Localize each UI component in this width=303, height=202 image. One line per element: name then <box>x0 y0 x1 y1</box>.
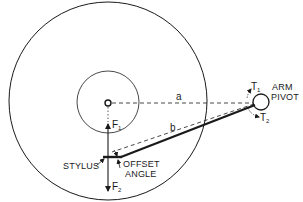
offset-angle-arc <box>114 150 117 156</box>
spindle <box>105 100 111 106</box>
offset-angle-label-line2: ANGLE <box>125 169 157 179</box>
pivot-to-stylus-line-b <box>112 104 254 152</box>
arm-pivot-label-line2: PIVOT <box>271 92 299 102</box>
distance-a-label: a <box>176 91 182 102</box>
torque-t1-subscript: 1 <box>257 87 261 93</box>
tonearm-diagram: ARM PIVOT a b F 1 F 2 T 1 T 2 STYLUS OFF… <box>0 0 303 202</box>
arm-pivot <box>253 94 269 110</box>
offset-angle-pointer <box>118 160 120 168</box>
distance-b-label: b <box>170 122 176 133</box>
torque-t2-subscript: 2 <box>266 118 270 124</box>
offset-angle-label-line1: OFFSET <box>123 159 160 169</box>
stylus-label: STYLUS <box>63 161 99 171</box>
force-f2-subscript: 2 <box>118 187 122 193</box>
tonearm <box>121 105 255 157</box>
arm-pivot-label-line1: ARM <box>272 82 293 92</box>
